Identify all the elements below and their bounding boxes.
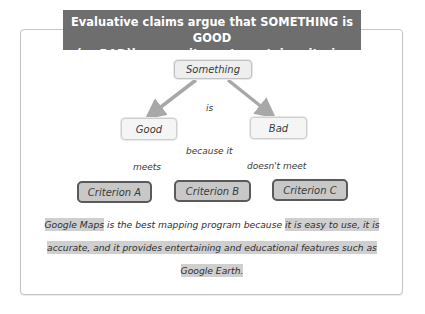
criterion-a-label: Criterion A xyxy=(88,187,141,198)
label-doesnt-meet: doesn't meet xyxy=(247,161,306,171)
node-criterion-b: Criterion B xyxy=(174,180,251,202)
example-sentence: Google Maps is the best mapping program … xyxy=(28,213,396,282)
criterion-b-label: Criterion B xyxy=(186,186,239,197)
example-claim: is the best mapping program because xyxy=(104,219,285,230)
label-meets: meets xyxy=(133,162,161,172)
node-something-label: Something xyxy=(186,64,240,75)
criterion-c-label: Criterion C xyxy=(283,185,336,196)
arrow-to-good xyxy=(153,80,196,113)
example-reason-1: it is easy to use, it is xyxy=(285,218,379,231)
label-is: is xyxy=(206,103,213,113)
node-criterion-c: Criterion C xyxy=(272,179,348,201)
example-reason-2: accurate, and it provides entertaining a… xyxy=(47,241,377,254)
label-because-it: because it xyxy=(186,146,233,156)
node-criterion-a: Criterion A xyxy=(77,181,152,203)
node-bad-label: Bad xyxy=(269,123,288,134)
node-good: Good xyxy=(121,118,177,140)
example-subject: Google Maps xyxy=(45,218,105,231)
node-good-label: Good xyxy=(136,124,162,135)
node-bad: Bad xyxy=(250,117,307,139)
example-reason-3: Google Earth. xyxy=(181,264,244,277)
node-something: Something xyxy=(174,60,252,79)
arrow-to-bad xyxy=(228,80,268,112)
